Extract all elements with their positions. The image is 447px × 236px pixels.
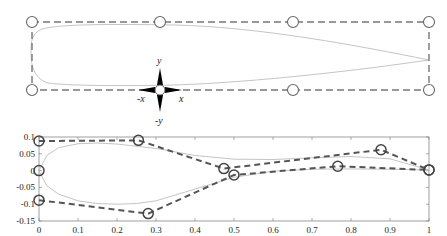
x-tick-label: 0.1 bbox=[72, 225, 83, 235]
x-tick-label: 0.5 bbox=[228, 225, 240, 235]
gizmo-label-neg-y: -y bbox=[155, 115, 163, 126]
arrow-down-icon bbox=[157, 95, 163, 112]
gizmo-label-y: y bbox=[156, 55, 162, 66]
control-handle[interactable] bbox=[424, 17, 435, 28]
control-handle[interactable] bbox=[155, 17, 166, 28]
ffd-panel: y -y -x x bbox=[27, 17, 435, 127]
gizmo-center-handle[interactable] bbox=[155, 85, 165, 95]
y-tick-label: -0.15 bbox=[16, 216, 35, 226]
x-tick-label: 0.4 bbox=[189, 225, 201, 235]
series-layer bbox=[34, 135, 434, 218]
gizmo-label-x: x bbox=[178, 93, 184, 104]
control-handle[interactable] bbox=[288, 85, 299, 96]
control-polygon bbox=[39, 166, 429, 213]
x-tick-label: 1 bbox=[427, 225, 432, 235]
control-handle[interactable] bbox=[288, 17, 299, 28]
x-tick-label: 0.8 bbox=[345, 225, 357, 235]
parameterization-chart: 00.10.20.30.40.50.60.70.80.91 0.10.050-0… bbox=[16, 132, 434, 235]
arrow-up-icon bbox=[157, 68, 163, 85]
x-tick-label: 0.9 bbox=[384, 225, 396, 235]
y-tick-label: -0.05 bbox=[16, 182, 35, 192]
x-tick-label: 0.2 bbox=[111, 225, 122, 235]
x-tick-label: 0.6 bbox=[267, 225, 279, 235]
control-handle[interactable] bbox=[424, 85, 435, 96]
x-tick-label: 0.3 bbox=[150, 225, 162, 235]
x-axis: 00.10.20.30.40.50.60.70.80.91 bbox=[37, 137, 432, 235]
airfoil-curve bbox=[39, 143, 429, 171]
control-handle[interactable] bbox=[27, 85, 38, 96]
figure: y -y -x x 00.10.20.30.40.50.60.70.80.91 … bbox=[0, 0, 447, 236]
y-tick-label: -0.1 bbox=[21, 199, 35, 209]
x-tick-label: 0.7 bbox=[306, 225, 318, 235]
y-tick-label: 0.05 bbox=[19, 149, 35, 159]
move-gizmo[interactable]: y -y -x x bbox=[137, 55, 184, 126]
ffd-bounding-box bbox=[32, 22, 429, 90]
airfoil-outline bbox=[31, 24, 429, 85]
control-polygon bbox=[39, 140, 429, 170]
control-handle[interactable] bbox=[27, 17, 38, 28]
gizmo-label-neg-x: -x bbox=[137, 93, 145, 104]
plot-frame bbox=[39, 137, 429, 221]
x-tick-label: 0 bbox=[37, 225, 42, 235]
